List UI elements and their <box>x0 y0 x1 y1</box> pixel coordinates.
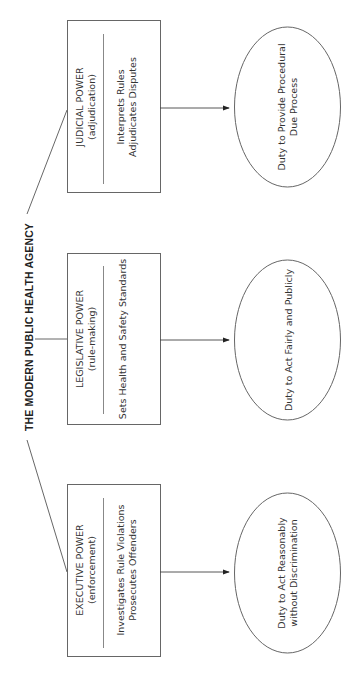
judicial-power-name: JUDICIAL POWER <box>74 67 86 146</box>
executive-function-2: Prosecutes Offenders <box>127 504 139 635</box>
connector-title-to-executive <box>27 440 67 572</box>
legislative-function-1: Sets Health and Safety Standards <box>117 259 129 419</box>
legislative-power-subtitle: (rule-making) <box>86 290 98 388</box>
executive-power-functions: Investigates Rule Violations Prosecutes … <box>115 504 139 635</box>
duty-legislative-line-1: Duty to Act Fairly and Publicly <box>283 269 295 411</box>
legislative-power-heading: LEGISLATIVE POWER (rule-making) <box>74 290 98 388</box>
executive-function-1: Investigates Rule Violations <box>115 504 127 635</box>
executive-power-name: EXECUTIVE POWER <box>74 524 86 615</box>
diagram-title: THE MODERN PUBLIC HEALTH AGENCY <box>23 223 35 431</box>
legislative-power-functions: Sets Health and Safety Standards <box>117 259 129 419</box>
duty-judicial-text: Duty to Provide Procedural Due Process <box>276 43 300 170</box>
executive-power-heading: EXECUTIVE POWER (enforcement) <box>74 524 98 615</box>
judicial-power-subtitle: (adjudication) <box>86 67 98 146</box>
duty-judicial-line-1: Duty to Provide Procedural <box>276 43 288 170</box>
duty-executive-line-2: without Discrimination <box>288 517 300 628</box>
judicial-power-functions: Interprets Rules Adjudicates Disputes <box>115 57 139 157</box>
legislative-power-name: LEGISLATIVE POWER <box>74 290 86 388</box>
judicial-power-heading: JUDICIAL POWER (adjudication) <box>74 67 98 146</box>
duty-legislative-text: Duty to Act Fairly and Publicly <box>283 269 295 411</box>
duty-executive-line-1: Duty to Act Reasonably <box>276 517 288 628</box>
connector-title-to-judicial <box>27 110 67 214</box>
duty-executive-text: Duty to Act Reasonably without Discrimin… <box>276 517 300 628</box>
duty-judicial-line-2: Due Process <box>288 43 300 170</box>
judicial-function-1: Interprets Rules <box>115 57 127 157</box>
judicial-function-2: Adjudicates Disputes <box>127 57 139 157</box>
executive-power-subtitle: (enforcement) <box>86 524 98 615</box>
